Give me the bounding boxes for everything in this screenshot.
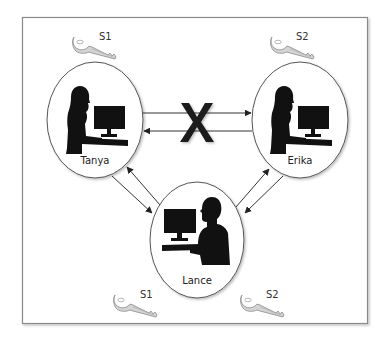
key-label-lance-s1: S1 (140, 289, 153, 300)
node-tanya-label: Tanya (80, 155, 110, 166)
node-erika: Erika (252, 62, 348, 178)
key-label-erika: S2 (296, 31, 309, 42)
key-label-lance-s2: S2 (266, 289, 279, 300)
node-lance-label: Lance (182, 275, 212, 286)
key-label-tanya: S1 (99, 31, 112, 42)
node-lance: Lance (150, 182, 244, 298)
node-erika-label: Erika (288, 155, 313, 166)
node-tanya: Tanya (47, 62, 143, 178)
diagram-canvas: S1 S2 S1 S2 Tanya Erika (0, 0, 388, 341)
